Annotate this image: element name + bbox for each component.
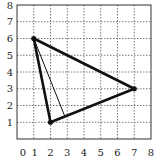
y-tick-label: 4: [7, 67, 13, 78]
x-tick-label: 4: [81, 147, 87, 158]
altitude-line: [34, 39, 65, 117]
vertex-point: [31, 36, 36, 41]
y-tick-label: 7: [7, 16, 13, 27]
y-tick-label: 1: [7, 117, 13, 128]
y-tick-label: 6: [7, 33, 13, 44]
x-tick-label: 1: [32, 147, 38, 158]
x-tick-label: 8: [148, 147, 154, 158]
y-tick-label: 8: [7, 0, 13, 11]
x-tick-label: 0: [20, 147, 26, 158]
grid: [17, 5, 151, 139]
y-axis-labels: 12345678: [7, 0, 13, 128]
y-tick-label: 3: [7, 83, 13, 94]
x-tick-label: 3: [64, 147, 70, 158]
x-tick-label: 2: [47, 147, 53, 158]
triangle-grid-diagram: 012345678 12345678: [0, 0, 167, 166]
x-tick-label: 5: [98, 147, 104, 158]
vertex-point: [48, 120, 53, 125]
x-axis-labels: 012345678: [20, 147, 154, 158]
y-tick-label: 2: [7, 100, 13, 111]
x-tick-label: 6: [114, 147, 120, 158]
y-tick-label: 5: [7, 50, 13, 61]
vertex-point: [132, 86, 137, 91]
x-tick-label: 7: [131, 147, 137, 158]
